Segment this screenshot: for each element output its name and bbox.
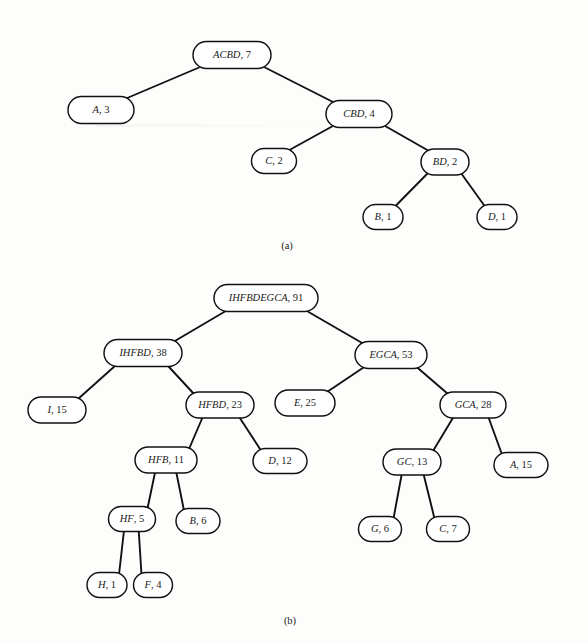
- tree-node[interactable]: HFB, 11: [135, 447, 197, 473]
- node-weight: , 38: [151, 347, 167, 358]
- node-label: B, 6: [190, 515, 207, 526]
- tree-edge: [126, 68, 199, 99]
- node-symbols: GCA: [455, 399, 477, 410]
- node-weight: , 4: [151, 579, 162, 590]
- tree-node[interactable]: GCA, 28: [440, 392, 506, 418]
- tree-node[interactable]: GC, 13: [383, 449, 441, 475]
- node-weight: , 6: [196, 515, 207, 526]
- tree-edge: [327, 368, 363, 393]
- figure-root: ACBD, 7A, 3CBD, 4C, 2BD, 2B, 1D, 1IHFBDE…: [0, 0, 588, 643]
- node-weight: , 1: [106, 579, 117, 590]
- tree-node[interactable]: D, 1: [477, 205, 517, 230]
- huffman-tree-figure: ACBD, 7A, 3CBD, 4C, 2BD, 2B, 1D, 1IHFBDE…: [0, 0, 588, 643]
- tree-edge: [239, 417, 261, 451]
- node-weight: , 15: [516, 459, 532, 470]
- node-symbols: ACBD: [212, 49, 241, 60]
- node-label: GCA, 28: [455, 399, 492, 410]
- tree-edge: [306, 311, 363, 344]
- node-symbols: HFB: [147, 454, 169, 465]
- tree-node[interactable]: F, 4: [134, 573, 173, 598]
- node-weight: , 3: [99, 104, 110, 115]
- node-symbols: HF: [119, 513, 135, 524]
- tree-edge: [174, 311, 227, 342]
- node-label: GC, 13: [397, 456, 427, 467]
- node-weight: , 23: [226, 399, 242, 410]
- tree-node[interactable]: H, 1: [87, 573, 127, 598]
- nodes-layer: ACBD, 7A, 3CBD, 4C, 2BD, 2B, 1D, 1IHFBDE…: [28, 42, 548, 598]
- node-symbols: EGCA: [368, 349, 397, 360]
- tree-edge: [424, 474, 435, 519]
- tree-node[interactable]: B, 6: [176, 509, 220, 534]
- tree-node[interactable]: G, 6: [359, 517, 402, 542]
- node-label: B, 1: [375, 211, 392, 222]
- node-label: HFBD, 23: [197, 399, 242, 410]
- edges-layer: [78, 68, 502, 575]
- node-weight: , 7: [446, 523, 457, 534]
- tree-node[interactable]: BD, 2: [421, 149, 469, 175]
- tree-node[interactable]: D, 12: [253, 449, 307, 474]
- node-label: H, 1: [97, 579, 116, 590]
- tree-edge: [265, 68, 334, 103]
- panel-caption-a: (a): [281, 240, 293, 252]
- node-label: ACBD, 7: [212, 49, 251, 60]
- tree-edge: [189, 417, 203, 449]
- node-symbols: IHFBD: [118, 347, 151, 358]
- node-label: IHFBD, 38: [118, 347, 166, 358]
- node-weight: , 1: [496, 211, 507, 222]
- tree-edge: [139, 531, 142, 575]
- panel-caption-b: (b): [284, 615, 297, 627]
- tree-node[interactable]: A, 15: [494, 453, 548, 478]
- tree-node[interactable]: IHFBD, 38: [104, 340, 182, 367]
- tree-node[interactable]: E, 25: [275, 390, 335, 416]
- tree-node[interactable]: ACBD, 7: [193, 42, 271, 69]
- node-label: F, 4: [144, 579, 163, 590]
- node-label: C, 7: [439, 523, 457, 534]
- node-label: A, 15: [509, 459, 532, 470]
- node-label: I, 15: [46, 404, 66, 415]
- tree-node[interactable]: HF, 5: [109, 507, 156, 532]
- tree-edge: [119, 531, 124, 575]
- node-symbols: HFBD: [197, 399, 226, 410]
- node-weight: , 15: [51, 404, 67, 415]
- node-weight: , 2: [272, 155, 283, 166]
- node-label: D, 12: [267, 455, 291, 466]
- node-label: C, 2: [265, 155, 283, 166]
- node-weight: , 6: [379, 523, 390, 534]
- node-label: D, 1: [487, 211, 506, 222]
- node-weight: , 4: [364, 108, 375, 119]
- tree-edge: [176, 472, 184, 511]
- node-symbols: IHFBDEGCA: [228, 292, 288, 303]
- tree-node[interactable]: B, 1: [363, 205, 403, 230]
- tree-node[interactable]: I, 15: [28, 397, 86, 423]
- node-weight: , 5: [134, 513, 145, 524]
- node-weight: , 1: [381, 211, 392, 222]
- node-label: HF, 5: [119, 513, 145, 524]
- node-label: E, 25: [293, 397, 316, 408]
- node-weight: , 11: [169, 454, 184, 465]
- tree-edge: [394, 474, 402, 519]
- node-label: G, 6: [371, 523, 389, 534]
- tree-node[interactable]: A, 3: [68, 97, 134, 124]
- node-weight: , 12: [276, 455, 292, 466]
- tree-edge: [148, 472, 156, 509]
- node-label: EGCA, 53: [368, 349, 412, 360]
- tree-node[interactable]: C, 7: [427, 517, 470, 542]
- tree-edge: [417, 368, 448, 395]
- tree-edge: [168, 366, 194, 395]
- tree-node[interactable]: HFBD, 23: [186, 392, 254, 418]
- node-weight: , 13: [411, 456, 427, 467]
- tree-edge: [433, 417, 453, 451]
- node-weight: , 28: [476, 399, 492, 410]
- node-symbols: CBD: [343, 108, 364, 119]
- tree-node[interactable]: CBD, 4: [326, 101, 392, 128]
- tree-node[interactable]: C, 2: [252, 149, 297, 174]
- node-label: CBD, 4: [343, 108, 375, 119]
- tree-node[interactable]: EGCA, 53: [355, 342, 427, 369]
- node-label: HFB, 11: [147, 454, 184, 465]
- tree-node[interactable]: IHFBDEGCA, 91: [214, 285, 318, 312]
- node-weight: , 91: [288, 292, 304, 303]
- node-weight: , 53: [397, 349, 413, 360]
- node-weight: , 7: [240, 49, 251, 60]
- tree-edge: [488, 417, 502, 455]
- node-symbols: GC: [397, 456, 413, 467]
